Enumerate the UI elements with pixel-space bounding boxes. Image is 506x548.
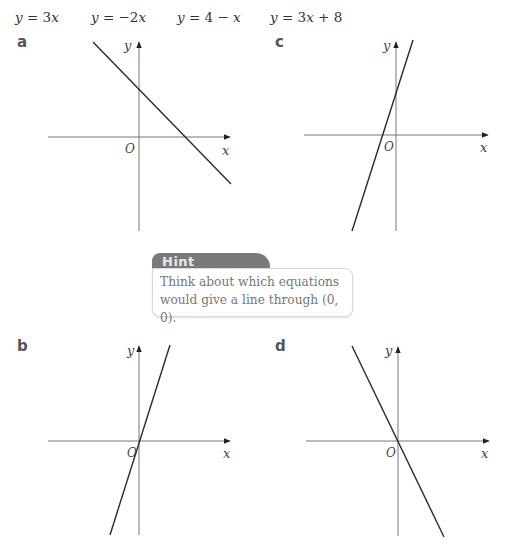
hint-box: Think about which equations would give a… [152,268,353,317]
y-axis-label: y [384,343,393,358]
graph-line [110,345,170,535]
origin-label: O [384,140,394,154]
graph-b: y x O [48,343,231,535]
graph-a: y x O [48,38,231,231]
hint-text: Think about which equations would give a… [160,273,350,327]
y-axis-label: y [382,38,391,53]
origin-label: O [127,446,137,460]
origin-label: O [386,446,396,460]
x-axis-label: x [222,143,230,158]
y-axis-label: y [126,343,135,358]
hint-title: Hint [162,254,195,269]
graph-d: y x O [306,343,489,537]
y-axis-label: y [123,38,132,53]
x-axis-label: x [223,446,231,461]
x-axis-label: x [480,140,488,155]
x-axis-label: x [481,446,489,461]
graph-line [93,42,231,184]
origin-label: O [125,142,135,156]
graph-c: y x O [304,38,488,231]
